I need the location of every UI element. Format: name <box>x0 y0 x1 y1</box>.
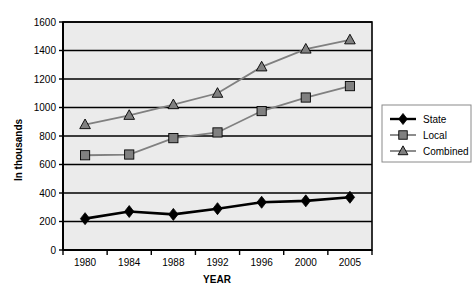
x-tick-label: 1984 <box>118 257 141 268</box>
legend-label: Combined <box>423 146 469 157</box>
y-tick-label: 1000 <box>34 102 57 113</box>
marker-square <box>213 128 222 137</box>
marker-square <box>257 106 266 115</box>
y-tick-label: 600 <box>39 159 56 170</box>
x-tick-labels: 1980198419881992199620002005 <box>74 257 362 268</box>
y-tick-label: 1600 <box>34 17 57 28</box>
y-tick-label: 800 <box>39 131 56 142</box>
marker-square <box>125 150 134 159</box>
marker-square <box>80 151 89 160</box>
x-tick-label: 2000 <box>295 257 318 268</box>
marker-square <box>169 134 178 143</box>
y-tick-label: 0 <box>50 245 56 256</box>
y-axis-title: In thousands <box>13 118 24 181</box>
y-tick-label: 1200 <box>34 74 57 85</box>
legend-label: Local <box>423 130 447 141</box>
x-tick-label: 2005 <box>339 257 362 268</box>
x-tick-label: 1988 <box>162 257 185 268</box>
chart-svg: 02004006008001000120014001600 1980198419… <box>0 0 476 287</box>
marker-square <box>399 131 407 139</box>
x-tick-label: 1980 <box>74 257 97 268</box>
marker-square <box>301 93 310 102</box>
y-tick-label: 400 <box>39 188 56 199</box>
line-chart: 02004006008001000120014001600 1980198419… <box>0 0 476 287</box>
y-tick-label: 200 <box>39 216 56 227</box>
x-axis-title: YEAR <box>203 274 232 285</box>
y-tick-label: 1400 <box>34 45 57 56</box>
legend-label: State <box>423 114 447 125</box>
y-tick-labels: 02004006008001000120014001600 <box>34 17 57 256</box>
marker-square <box>345 82 354 91</box>
x-tick-label: 1992 <box>206 257 229 268</box>
x-tick-label: 1996 <box>251 257 274 268</box>
legend: StateLocalCombined <box>382 105 471 162</box>
